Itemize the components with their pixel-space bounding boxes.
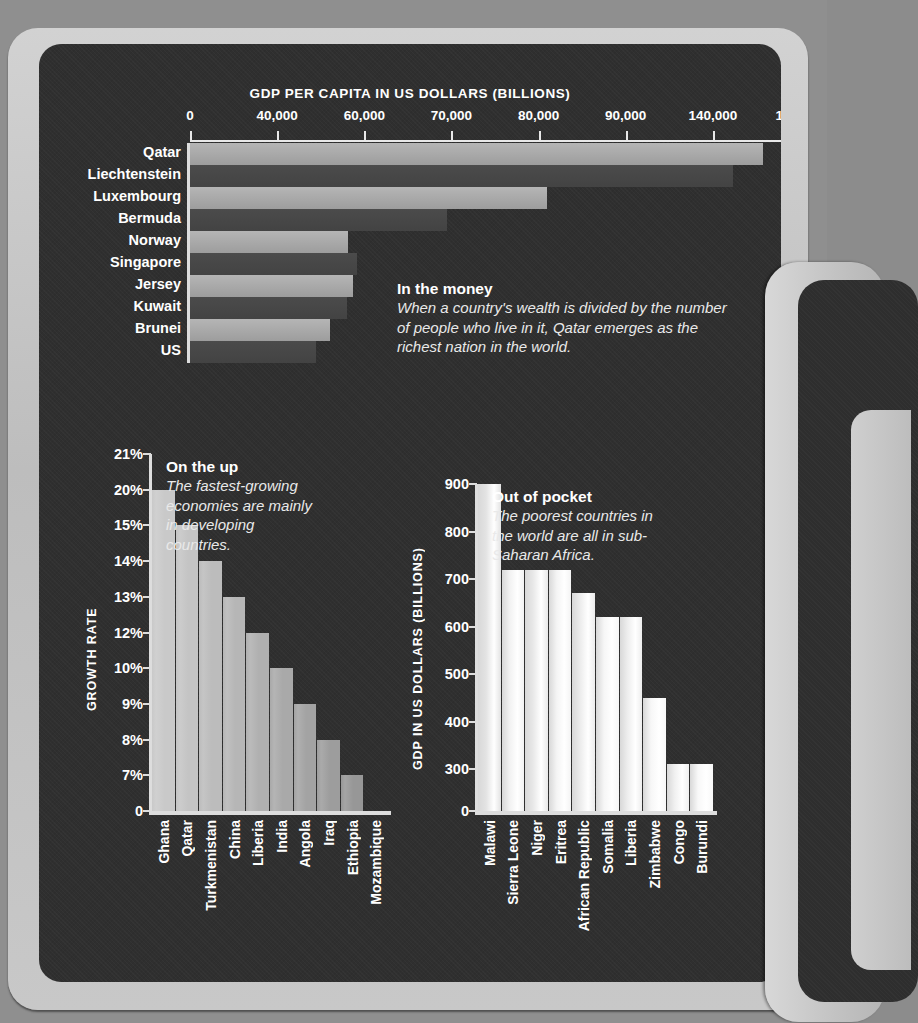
bar bbox=[190, 165, 733, 187]
x-category-label: Eritrea bbox=[553, 820, 569, 864]
bar bbox=[199, 561, 222, 811]
out-of-pocket-callout: Out of pocket The poorest countries in t… bbox=[492, 488, 677, 565]
y-tick-mark bbox=[143, 774, 151, 776]
bar bbox=[190, 187, 547, 209]
x-category-label: Zimbabwe bbox=[647, 820, 663, 888]
y-tick-label: 14% bbox=[114, 553, 143, 569]
x-tick-label: 140,000 bbox=[688, 108, 737, 123]
chart-panel: GDP PER CAPITA IN US DOLLARS (BILLIONS) … bbox=[39, 44, 781, 982]
bar bbox=[317, 740, 340, 811]
y-tick-mark bbox=[469, 626, 477, 628]
x-tick-mark bbox=[364, 131, 366, 140]
x-category-label: Iraq bbox=[321, 820, 337, 846]
on-the-up-callout: On the up The fastest-growing economies … bbox=[166, 458, 316, 554]
axis-end-cap bbox=[190, 131, 192, 140]
y-tick-mark bbox=[469, 578, 477, 580]
y-tick-label: 10% bbox=[114, 660, 143, 676]
top-chart-title: GDP PER CAPITA IN US DOLLARS (BILLIONS) bbox=[39, 86, 781, 101]
y-tick-mark bbox=[469, 673, 477, 675]
bar bbox=[502, 570, 525, 812]
y-tick-label: 21% bbox=[114, 446, 143, 462]
bar bbox=[190, 231, 348, 253]
y-tick-label: 900 bbox=[445, 476, 469, 492]
x-category-label: African Republic bbox=[576, 820, 592, 931]
growth-rate-x-axis bbox=[149, 811, 391, 815]
y-tick-mark bbox=[469, 768, 477, 770]
bar bbox=[176, 525, 199, 811]
callout-body: The poorest countries in the world are a… bbox=[492, 506, 677, 565]
growth-rate-chart: GROWTH RATE GhanaQatarTurkmenistanChinaL… bbox=[61, 436, 391, 956]
x-tick-label: 80,000 bbox=[518, 108, 559, 123]
y-tick-mark bbox=[143, 667, 151, 669]
x-tick-mark bbox=[713, 131, 715, 140]
bar bbox=[223, 597, 246, 811]
bar bbox=[190, 319, 330, 341]
callout-body: The fastest-growing economies are mainly… bbox=[166, 476, 316, 554]
x-category-label: Qatar bbox=[179, 820, 195, 857]
x-tick-mark bbox=[626, 131, 628, 140]
y-tick-label: 12% bbox=[114, 625, 143, 641]
y-tick-label: 9% bbox=[122, 696, 143, 712]
bar bbox=[643, 698, 666, 811]
y-tick-mark bbox=[143, 560, 151, 562]
x-category-label: Congo bbox=[671, 820, 687, 864]
x-category-label: Turkmenistan bbox=[203, 820, 219, 911]
y-tick-mark bbox=[143, 453, 151, 455]
y-tick-label: 0 bbox=[135, 803, 143, 819]
gdp-axis-label: GDP IN US DOLLARS (BILLIONS) bbox=[411, 534, 425, 784]
bar-row: Norway bbox=[190, 231, 781, 253]
y-tick-label: 700 bbox=[445, 571, 469, 587]
bar-category-label: Kuwait bbox=[133, 298, 181, 314]
bar-category-label: Singapore bbox=[110, 254, 181, 270]
y-tick-mark bbox=[469, 531, 477, 533]
x-category-label: Niger bbox=[529, 820, 545, 856]
bar-row: Luxembourg bbox=[190, 187, 781, 209]
x-tick-mark bbox=[277, 131, 279, 140]
growth-rate-category-labels: GhanaQatarTurkmenistanChinaLiberiaIndiaA… bbox=[152, 820, 388, 950]
bar bbox=[596, 617, 619, 811]
y-tick-mark bbox=[143, 632, 151, 634]
y-tick-label: 15% bbox=[114, 517, 143, 533]
y-tick-label: 600 bbox=[445, 619, 469, 635]
x-tick-label: 90,000 bbox=[605, 108, 646, 123]
bar bbox=[190, 341, 316, 363]
in-the-money-callout: In the money When a country's wealth is … bbox=[397, 280, 727, 357]
bar bbox=[190, 275, 353, 297]
callout-heading: Out of pocket bbox=[492, 488, 677, 506]
y-tick-label: 300 bbox=[445, 761, 469, 777]
bar bbox=[190, 209, 447, 231]
bar bbox=[246, 633, 269, 812]
callout-body: When a country's wealth is divided by th… bbox=[397, 298, 727, 357]
y-tick-label: 500 bbox=[445, 666, 469, 682]
bar-category-label: Bermuda bbox=[118, 210, 181, 226]
callout-heading: In the money bbox=[397, 280, 727, 298]
y-tick-mark bbox=[469, 810, 477, 812]
bar-category-label: Qatar bbox=[143, 144, 181, 160]
gdp-x-axis bbox=[475, 811, 717, 815]
y-tick-label: 13% bbox=[114, 589, 143, 605]
y-tick-label: 400 bbox=[445, 714, 469, 730]
gdp-category-labels: MalawiSierra LeoneNigerEritreaAfrican Re… bbox=[478, 820, 714, 950]
x-tick-label: 40,000 bbox=[256, 108, 297, 123]
x-category-label: Sierra Leone bbox=[505, 820, 521, 905]
bar bbox=[270, 668, 293, 811]
y-tick-mark bbox=[143, 489, 151, 491]
x-tick-label: 0 bbox=[186, 108, 194, 123]
x-tick-mark bbox=[451, 131, 453, 140]
x-tick-label: 70,000 bbox=[431, 108, 472, 123]
bar-category-label: Jersey bbox=[135, 276, 181, 292]
x-category-label: Angola bbox=[297, 820, 313, 867]
bar-row: Qatar bbox=[190, 143, 781, 165]
bar bbox=[572, 593, 595, 811]
bar-category-label: Liechtenstein bbox=[88, 166, 181, 182]
x-category-label: Ethiopia bbox=[345, 820, 361, 875]
gdp-poorest-chart: GDP IN US DOLLARS (BILLIONS) MalawiSierr… bbox=[389, 436, 769, 956]
bar-row: Liechtenstein bbox=[190, 165, 781, 187]
bar bbox=[294, 704, 317, 811]
y-tick-label: 8% bbox=[122, 732, 143, 748]
x-category-label: Burundi bbox=[694, 820, 710, 874]
adjacent-panel-card bbox=[851, 410, 911, 970]
bar-category-label: Brunei bbox=[135, 320, 181, 336]
growth-rate-axis-label: GROWTH RATE bbox=[85, 584, 99, 734]
